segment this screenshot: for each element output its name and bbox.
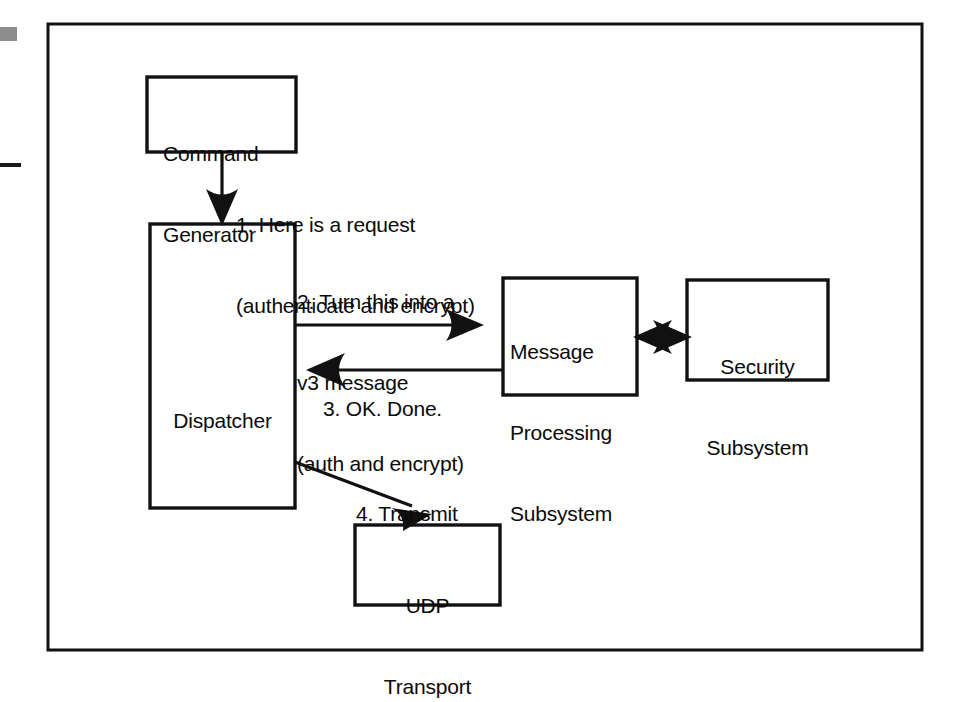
- box-message-processing-line-1: Message: [510, 338, 612, 365]
- label-step-3-line-1: 3. OK. Done.: [323, 395, 442, 422]
- box-dispatcher-line-1: Dispatcher: [150, 407, 295, 434]
- box-message-processing-line-3: Subsystem: [510, 500, 612, 527]
- box-udp-transport-line-2: Transport: [355, 673, 500, 700]
- label-step-4-line-1: 4. Transmit: [356, 500, 458, 527]
- box-dispatcher-label: Dispatcher: [150, 353, 295, 488]
- box-udp-transport-line-1: UDP: [355, 592, 500, 619]
- label-step-4: 4. Transmit: [356, 446, 458, 581]
- page-mark-left-rule: [0, 163, 21, 167]
- box-security-subsystem-line-1: Security: [687, 353, 828, 380]
- page-mark-gray-block: [0, 27, 17, 41]
- box-message-processing-line-2: Processing: [510, 419, 612, 446]
- box-security-subsystem-line-2: Subsystem: [687, 434, 828, 461]
- box-security-subsystem-label: Security Subsystem: [687, 299, 828, 515]
- label-step-2-line-1: 2. Turn this into a: [297, 288, 464, 315]
- box-message-processing-subsystem-label: Message Processing Subsystem: [510, 284, 612, 581]
